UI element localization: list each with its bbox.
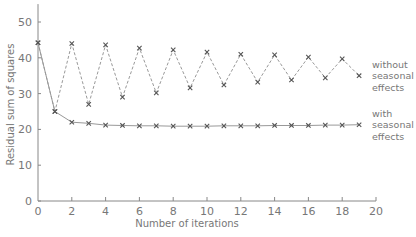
x-marker-icon	[306, 55, 310, 59]
chart: 0102030405002468101214161820 Number of i…	[0, 0, 416, 237]
y-tick-label: 0	[25, 195, 32, 208]
series-label-line: seasonal	[372, 70, 414, 81]
x-marker-icon	[357, 74, 361, 78]
x-marker-icon	[289, 78, 293, 82]
x-marker-icon	[137, 46, 141, 50]
y-tick-label: 50	[18, 16, 32, 29]
x-tick-label: 20	[369, 205, 383, 218]
x-tick-label: 0	[35, 205, 42, 218]
x-tick-label: 16	[301, 205, 315, 218]
series-group	[36, 41, 362, 129]
x-marker-icon	[171, 48, 175, 52]
x-tick-label: 2	[68, 205, 75, 218]
x-tick-label: 14	[268, 205, 282, 218]
series-label-line: seasonal	[372, 119, 414, 130]
x-marker-icon	[239, 52, 243, 56]
x-tick-label: 8	[170, 205, 177, 218]
x-marker-icon	[272, 53, 276, 57]
x-marker-icon	[323, 76, 327, 80]
x-marker-icon	[340, 57, 344, 61]
x-axis-label: Number of iterations	[135, 218, 239, 229]
y-tick-label: 20	[18, 123, 32, 136]
series-label-line: effects	[372, 131, 404, 142]
y-tick-label: 30	[18, 88, 32, 101]
y-tick-label: 10	[18, 159, 32, 172]
series-label-line: effects	[372, 82, 404, 93]
x-marker-icon	[205, 50, 209, 54]
x-marker-icon	[222, 83, 226, 87]
x-tick-label: 4	[102, 205, 109, 218]
y-tick-label: 40	[18, 52, 32, 65]
series-label-with-seasonal: withseasonaleffects	[372, 108, 414, 142]
series-label-line: with	[372, 108, 392, 119]
x-tick-label: 12	[234, 205, 248, 218]
x-tick-label: 18	[335, 205, 349, 218]
x-marker-icon	[188, 86, 192, 90]
y-axis-label: Residual sum of squares	[5, 44, 16, 166]
x-tick-label: 10	[200, 205, 214, 218]
x-tick-label: 6	[136, 205, 143, 218]
series-line-without-seasonal	[38, 43, 359, 112]
x-marker-icon	[154, 91, 158, 95]
x-marker-icon	[256, 80, 260, 84]
series-label-line: without	[372, 59, 408, 70]
series-label-without-seasonal: withoutseasonaleffects	[372, 59, 414, 93]
axes: 0102030405002468101214161820	[18, 4, 383, 218]
